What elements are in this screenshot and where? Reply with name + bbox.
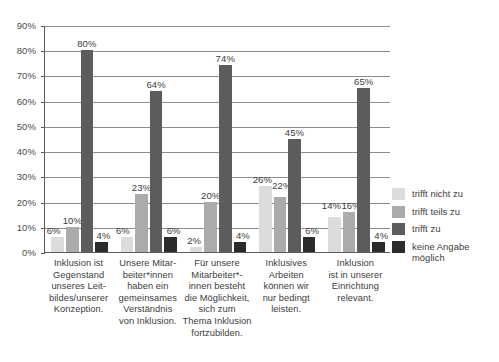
- bar[interactable]: [95, 242, 108, 252]
- bar[interactable]: [164, 237, 177, 252]
- bar-value-label: 6%: [110, 226, 136, 236]
- legend-item[interactable]: trifft teils zu: [392, 206, 496, 219]
- bar[interactable]: [121, 237, 134, 252]
- bar[interactable]: [274, 197, 287, 252]
- legend-label: trifft teils zu: [412, 206, 460, 218]
- x-axis-label-line: die Möglichkeit,: [180, 293, 253, 305]
- x-axis-label-line: nur bedingt: [250, 293, 323, 305]
- x-axis-label-line: von Inklusion.: [111, 316, 184, 328]
- legend-label-line: trifft teils zu: [412, 206, 460, 218]
- x-axis-label-line: sich zum: [180, 304, 253, 316]
- legend-item[interactable]: keine Angabemöglich: [392, 241, 496, 264]
- bar[interactable]: [259, 186, 272, 252]
- x-axis-label-line: Thema Inklusion: [180, 316, 253, 328]
- bar-chart: 90%80%70%60%50%40%30%20%10%0% 6%10%80%4%…: [0, 0, 499, 362]
- bar-group: 14%16%65%4%: [322, 26, 391, 252]
- x-axis-category-labels: Inklusion istGegenstandunseres Leit-bild…: [44, 258, 390, 362]
- x-axis-label-line: fortzubilden.: [180, 328, 253, 340]
- bar[interactable]: [51, 237, 64, 252]
- x-axis-label-line: Inklusives: [250, 258, 323, 270]
- bar-groups: 6%10%80%4%6%23%64%6%2%20%74%4%26%22%45%6…: [45, 26, 390, 252]
- x-axis-label-line: Unsere Mitar-: [111, 258, 184, 270]
- x-axis-label-line: können wir: [250, 281, 323, 293]
- bar[interactable]: [357, 88, 370, 252]
- y-axis: 90%80%70%60%50%40%30%20%10%0%: [0, 0, 44, 362]
- y-tick-label: 80%: [17, 46, 36, 56]
- y-tick-label: 0%: [22, 248, 36, 258]
- y-tick-label: 90%: [17, 21, 36, 31]
- legend-color-swatch: [392, 223, 405, 235]
- x-axis-label-line: relevant.: [319, 293, 392, 305]
- x-axis-label: Inklusion istGegenstandunseres Leit-bild…: [42, 258, 115, 316]
- legend-label: keine Angabemöglich: [412, 241, 469, 264]
- x-axis-label: InklusivesArbeitenkönnen wirnur bedingtl…: [250, 258, 323, 316]
- x-axis-label-line: leisten.: [250, 304, 323, 316]
- y-tick-label: 70%: [17, 71, 36, 81]
- bar[interactable]: [303, 237, 316, 252]
- bar-value-label: 80%: [74, 39, 100, 49]
- bar-value-label: 74%: [212, 54, 238, 64]
- x-axis-label-line: gemeinsames: [111, 293, 184, 305]
- x-axis-label: Inklusionist in unsererEinrichtungreleva…: [319, 258, 392, 304]
- y-tick-label: 50%: [17, 122, 36, 132]
- legend-label: trifft zu: [412, 223, 440, 235]
- y-tick-label: 30%: [17, 172, 36, 182]
- bar[interactable]: [328, 217, 341, 252]
- bar[interactable]: [343, 212, 356, 252]
- x-axis-label-line: Verständnis: [111, 304, 184, 316]
- x-axis-label-line: Gegenstand: [42, 270, 115, 282]
- bar[interactable]: [372, 242, 385, 252]
- x-axis-label-line: Konzeption.: [42, 304, 115, 316]
- x-axis-label-line: ist in unserer: [319, 270, 392, 282]
- bar-value-label: 45%: [281, 128, 307, 138]
- y-tick-label: 40%: [17, 147, 36, 157]
- bar-group: 26%22%45%6%: [253, 26, 322, 252]
- legend-color-swatch: [392, 188, 405, 200]
- x-axis-label-line: Inklusion: [319, 258, 392, 270]
- chart-legend: trifft nicht zutrifft teils zutrifft zuk…: [392, 188, 496, 268]
- bar-group: 2%20%74%4%: [183, 26, 252, 252]
- plot-area: 6%10%80%4%6%23%64%6%2%20%74%4%26%22%45%6…: [44, 26, 390, 253]
- legend-label-line: trifft nicht zu: [412, 188, 463, 200]
- x-axis-label-line: innen besteht: [180, 281, 253, 293]
- x-axis-label-line: Arbeiten: [250, 270, 323, 282]
- legend-label-line: keine Angabe: [412, 241, 469, 253]
- bar[interactable]: [66, 227, 79, 252]
- legend-label-line: trifft zu: [412, 223, 440, 235]
- bar-value-label: 4%: [368, 231, 394, 241]
- x-axis-label-line: Für unsere: [180, 258, 253, 270]
- bar[interactable]: [135, 194, 148, 252]
- legend-label-line: möglich: [412, 252, 469, 264]
- bar-group: 6%23%64%6%: [114, 26, 183, 252]
- bar[interactable]: [234, 242, 247, 252]
- bar-value-label: 65%: [351, 77, 377, 87]
- x-axis-label: Für unsereMitarbeiter*-innen bestehtdie …: [180, 258, 253, 339]
- bar[interactable]: [219, 65, 232, 252]
- bar-value-label: 6%: [41, 226, 67, 236]
- y-tick-mark: [41, 253, 45, 254]
- x-axis-label-line: bildes/unserer: [42, 293, 115, 305]
- x-axis-label-line: Mitarbeiter*-: [180, 270, 253, 282]
- legend-color-swatch: [392, 241, 405, 253]
- y-tick-label: 20%: [17, 198, 36, 208]
- legend-item[interactable]: trifft nicht zu: [392, 188, 496, 201]
- y-tick-label: 10%: [17, 223, 36, 233]
- legend-label: trifft nicht zu: [412, 188, 463, 200]
- bar[interactable]: [204, 202, 217, 252]
- bar-value-label: 64%: [143, 80, 169, 90]
- y-tick-label: 60%: [17, 97, 36, 107]
- bar[interactable]: [190, 247, 203, 252]
- legend-item[interactable]: trifft zu: [392, 223, 496, 236]
- x-axis-label-line: haben ein: [111, 281, 184, 293]
- x-axis-label-line: Einrichtung: [319, 281, 392, 293]
- bar-group: 6%10%80%4%: [45, 26, 114, 252]
- x-axis-label: Unsere Mitar-beiter*innenhaben eingemein…: [111, 258, 184, 328]
- bar-value-label: 2%: [181, 236, 207, 246]
- legend-color-swatch: [392, 206, 405, 218]
- bar[interactable]: [81, 50, 94, 252]
- x-axis-label-line: beiter*innen: [111, 270, 184, 282]
- x-axis-label-line: Inklusion ist: [42, 258, 115, 270]
- x-axis-label-line: unseres Leit-: [42, 281, 115, 293]
